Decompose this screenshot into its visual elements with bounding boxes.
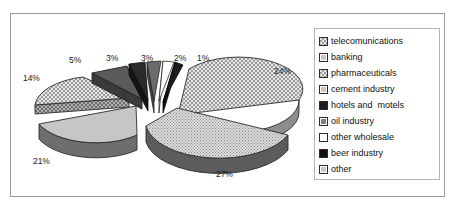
legend-label: hotels and motels (331, 100, 404, 110)
pie-chart-plot: 14% 5% 3% 3% 2% 1% 24% 21% 27% (11, 14, 311, 196)
legend-item-other-wholesale[interactable]: other wholesale (319, 129, 436, 145)
pie-label-cement-industry: 14% (23, 73, 40, 83)
legend-swatch-icon (319, 117, 328, 126)
pie-label-telecomunications: 24% (274, 66, 291, 76)
legend-item-banking[interactable]: banking (319, 49, 436, 65)
legend-swatch-icon (319, 53, 328, 62)
legend-label: oil industry (331, 116, 374, 126)
legend-label: pharmaceuticals (331, 68, 397, 78)
pie-label-beer-industry: 2% (174, 53, 186, 63)
legend-swatch-icon (319, 149, 328, 158)
pie-label-other-wholesale: 3% (141, 53, 153, 63)
legend-item-beer-industry[interactable]: beer industry (319, 145, 436, 161)
chart-legend: telecomunications banking pharmaceutical… (314, 28, 440, 180)
legend-item-cement-industry[interactable]: cement industry (319, 81, 436, 97)
pie-label-banking: 27% (216, 169, 233, 179)
pie-label-other: 1% (197, 53, 209, 63)
chart-figure: 14% 5% 3% 3% 2% 1% 24% 21% 27% telecomun… (10, 13, 445, 197)
legend-item-telecomunications[interactable]: telecomunications (319, 33, 436, 49)
legend-label: other (331, 164, 352, 174)
legend-item-pharmaceuticals[interactable]: pharmaceuticals (319, 65, 436, 81)
pie-label-oil-industry: 3% (106, 53, 118, 63)
legend-item-oil-industry[interactable]: oil industry (319, 113, 436, 129)
legend-label: banking (331, 52, 363, 62)
pie-chart-svg (11, 14, 311, 196)
legend-swatch-icon (319, 133, 328, 142)
legend-label: other wholesale (331, 132, 394, 142)
legend-swatch-icon (319, 69, 328, 78)
pie-label-pharmaceuticals: 21% (33, 156, 50, 166)
pie-label-hotels-and-motels: 5% (69, 55, 81, 65)
legend-item-hotels-and-motels[interactable]: hotels and motels (319, 97, 436, 113)
legend-swatch-icon (319, 101, 328, 110)
legend-swatch-icon (319, 165, 328, 174)
legend-swatch-icon (319, 37, 328, 46)
legend-label: cement industry (331, 84, 395, 94)
legend-item-other[interactable]: other (319, 161, 436, 177)
legend-label: beer industry (331, 148, 383, 158)
legend-swatch-icon (319, 85, 328, 94)
legend-label: telecomunications (331, 36, 403, 46)
